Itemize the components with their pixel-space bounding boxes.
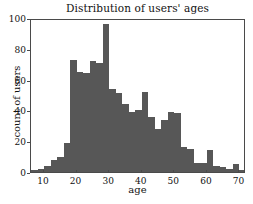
histogram-figure: Distribution of users' ages 020406080100…	[0, 0, 253, 204]
histogram-bar	[155, 129, 162, 172]
histogram-bar	[116, 93, 123, 172]
histogram-bar	[135, 110, 142, 172]
y-axis-label: count of users	[11, 42, 22, 162]
bars-layer	[31, 20, 244, 172]
histogram-bar	[70, 60, 77, 172]
histogram-bar	[83, 73, 90, 172]
x-tick-mark	[206, 170, 207, 173]
histogram-bar	[207, 150, 214, 172]
histogram-bar	[220, 167, 227, 172]
histogram-bar	[226, 169, 233, 172]
histogram-bar	[161, 120, 168, 172]
histogram-bar	[96, 63, 103, 172]
histogram-bar	[181, 147, 188, 172]
histogram-bar	[122, 104, 129, 172]
y-tick-label: 100	[0, 14, 26, 24]
histogram-bar	[103, 24, 110, 172]
y-tick-mark	[27, 173, 30, 174]
histogram-bar	[51, 160, 58, 172]
chart-title: Distribution of users' ages	[30, 2, 245, 14]
histogram-bar	[57, 157, 64, 172]
x-tick-mark	[173, 170, 174, 173]
histogram-bar	[194, 163, 201, 172]
histogram-bar	[174, 113, 181, 172]
x-tick-mark	[43, 170, 44, 173]
histogram-bar	[187, 149, 194, 172]
histogram-bar	[239, 170, 245, 172]
x-tick-mark	[76, 170, 77, 173]
x-tick-mark	[238, 170, 239, 173]
histogram-bar	[148, 117, 155, 172]
histogram-bar	[213, 166, 220, 172]
histogram-bar	[129, 112, 136, 172]
plot-area	[30, 19, 245, 173]
x-tick-mark	[108, 170, 109, 173]
histogram-bar	[142, 92, 149, 172]
histogram-bar	[109, 89, 116, 172]
histogram-bar	[77, 72, 84, 172]
histogram-bar	[168, 112, 175, 172]
x-axis-label: age	[30, 184, 245, 195]
histogram-bar	[64, 143, 71, 172]
y-tick-label: 0	[0, 168, 26, 178]
histogram-bar	[90, 61, 97, 172]
histogram-bar	[44, 166, 51, 172]
x-tick-mark	[141, 170, 142, 173]
